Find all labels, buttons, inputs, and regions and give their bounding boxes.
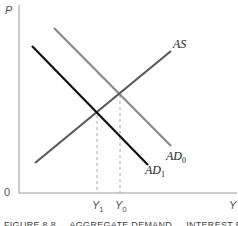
diagram-canvas [0,0,238,226]
as-label: AS [173,38,186,50]
as-curve [35,51,171,163]
ad1-label: AD1 [145,164,165,179]
ad0-label-main: AD [166,149,182,163]
x-axis-label: Y [229,200,236,211]
figure-caption: FIGURE 8.8 ... AGGREGATE DEMAND ... INTE… [4,220,238,226]
ad0-label-sub: 0 [182,156,186,165]
y-axis-label: P [5,5,12,16]
y1-sub: 1 [99,205,103,214]
diagram: P 0 Y AS AD0 AD1 Y1 Y0 FIGURE 8.8 ... AG… [0,0,238,226]
y0-tick-label: Y0 [115,200,127,214]
origin-label: 0 [4,187,10,198]
y1-tick-label: Y1 [92,200,104,214]
ad1-label-main: AD [145,163,161,177]
ad0-label: AD0 [166,150,186,165]
y0-sub: 0 [122,205,126,214]
ad1-label-sub: 1 [161,170,165,179]
